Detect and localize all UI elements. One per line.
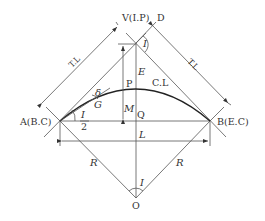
label-l: L	[138, 129, 146, 140]
circular-curve-diagram: V(I.P) D A(B.C) B(E.C) O P Q T.L T.L C.L…	[0, 0, 265, 221]
label-r-left: R	[89, 157, 98, 168]
chord-g-line	[60, 88, 110, 121]
label-r-right: R	[175, 157, 184, 168]
tl-ext-right	[228, 103, 231, 105]
radius-line-right	[136, 121, 210, 198]
label-i-center: I	[139, 177, 145, 188]
label-tl-left: T.L	[67, 54, 82, 69]
label-q: Q	[137, 109, 145, 120]
label-d: D	[157, 12, 165, 23]
label-p: P	[126, 78, 133, 89]
label-tl-right: T.L	[186, 57, 201, 72]
label-b: B(E.C)	[217, 116, 249, 127]
tl-ext-left	[116, 22, 118, 25]
tl-dimension-left	[42, 27, 117, 103]
label-half-i-num: I	[80, 109, 86, 120]
label-half-i-den: 2	[81, 121, 87, 132]
label-e: E	[137, 66, 146, 77]
label-cl: C.L	[152, 77, 169, 88]
label-v: V(I.P)	[121, 12, 149, 23]
label-a: A(B.C)	[19, 116, 52, 127]
label-g: G	[94, 99, 102, 110]
radius-line-left	[60, 121, 136, 198]
label-o: O	[132, 200, 140, 211]
label-m: M	[123, 103, 135, 114]
label-delta: δ	[95, 87, 101, 98]
